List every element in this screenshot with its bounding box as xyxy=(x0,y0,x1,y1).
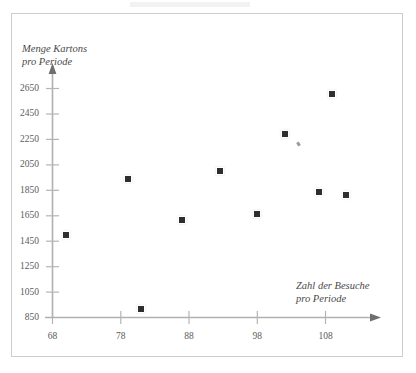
y-tick-label: 2450 xyxy=(9,108,39,118)
data-point xyxy=(343,192,349,198)
y-tick-label: 1650 xyxy=(9,210,39,220)
x-axis-title-line2: pro Periode xyxy=(296,292,370,305)
x-tick-label: 68 xyxy=(39,331,67,341)
y-tick-label: 1850 xyxy=(9,185,39,195)
data-point xyxy=(254,211,260,217)
y-tick-label: 850 xyxy=(9,312,39,322)
data-point xyxy=(179,217,185,223)
x-axis-title-line1: Zahl der Besuche xyxy=(296,279,370,292)
y-tick-label: 1050 xyxy=(9,287,39,297)
y-axis-title: Menge Kartons pro Periode xyxy=(22,42,87,68)
y-tick-label: 1250 xyxy=(9,261,39,271)
x-tick-label: 98 xyxy=(243,331,271,341)
data-point xyxy=(125,176,131,182)
y-axis xyxy=(46,63,59,318)
data-point xyxy=(329,91,335,97)
y-tick-label: 1450 xyxy=(9,236,39,246)
x-tick-label: 78 xyxy=(107,331,135,341)
x-axis-title: Zahl der Besuche pro Periode xyxy=(296,279,370,305)
x-axis xyxy=(45,311,381,324)
x-tick-label: 88 xyxy=(175,331,203,341)
y-tick-label: 2250 xyxy=(9,134,39,144)
scatter-plot-figure: Menge Kartons pro Periode Zahl der Besuc… xyxy=(0,0,416,373)
data-point xyxy=(217,168,223,174)
data-point xyxy=(138,306,144,312)
data-point xyxy=(63,232,69,238)
y-axis-title-line1: Menge Kartons xyxy=(22,42,87,55)
x-tick-label: 108 xyxy=(312,331,340,341)
y-axis-title-line2: pro Periode xyxy=(22,55,87,68)
data-point xyxy=(316,189,322,195)
y-tick-label: 2050 xyxy=(9,159,39,169)
data-point xyxy=(282,131,288,137)
y-tick-label: 2650 xyxy=(9,83,39,93)
